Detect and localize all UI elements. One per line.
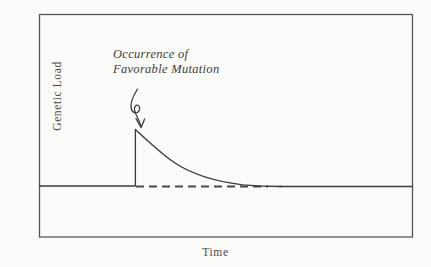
annotation-line-1: Occurrence of <box>113 47 219 62</box>
genetic-load-figure: Occurrence of Favorable Mutation Genetic… <box>0 0 431 267</box>
curved-arrow-icon <box>131 89 145 128</box>
decay-curve-series-line <box>135 130 281 187</box>
annotation-line-2: Favorable Mutation <box>113 62 219 77</box>
x-axis-label: Time <box>0 246 431 258</box>
mutation-annotation-text: Occurrence of Favorable Mutation <box>113 47 219 77</box>
plot-frame <box>40 15 413 238</box>
y-axis-label: Genetic Load <box>49 49 65 143</box>
